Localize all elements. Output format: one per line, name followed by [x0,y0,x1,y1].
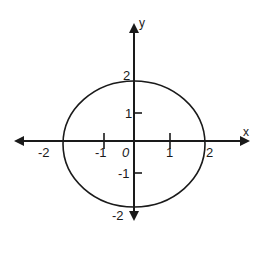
x-tick-label-2: 2 [206,145,213,160]
y-tick-label-neg2: -2 [112,208,124,223]
x-axis-left-arrow-icon [14,136,24,146]
x-tick-label-1: 1 [166,145,173,160]
y-tick-label-1: 1 [125,106,132,121]
y-axis-up-arrow-icon [129,23,139,33]
y-axis-label: y [139,16,145,30]
x-tick-label-neg2: -2 [38,145,50,160]
origin-label: 0 [122,145,130,160]
circle-graph: x y -2 -1 1 2 0 2 1 -1 -2 [0,0,263,255]
x-axis-label: x [243,125,249,139]
x-tick-label-neg1: -1 [95,145,107,160]
y-axis-down-arrow-icon [129,211,139,221]
y-tick-label-neg1: -1 [118,166,130,181]
y-tick-label-2: 2 [123,68,130,83]
x-axis: x [14,125,250,146]
